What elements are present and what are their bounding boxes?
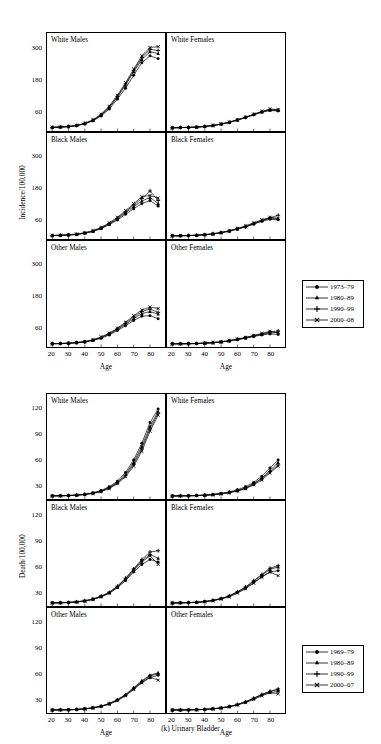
death-ytick: 30 <box>24 589 42 597</box>
incidence-ytick: 180 <box>24 184 42 192</box>
x-tick-label: 50 <box>92 350 110 358</box>
legend-symbol-filled-circle-icon <box>305 282 329 292</box>
incidence-ytick: 180 <box>24 76 42 84</box>
incidence-ytick: 300 <box>24 44 42 52</box>
panel-incidence-white-males: White Males <box>46 32 166 132</box>
x-tick-label: 60 <box>109 350 127 358</box>
incidence-ytick: 180 <box>24 292 42 300</box>
panel-plot <box>167 394 285 499</box>
incidence-ytick: 300 <box>24 152 42 160</box>
legend-symbol-plus-icon <box>305 669 329 679</box>
panel-plot <box>47 241 165 347</box>
panel-plot <box>167 133 285 239</box>
x-tick-label: 60 <box>229 350 247 358</box>
death-ytick: 120 <box>24 618 42 626</box>
legend-symbol-cross-icon <box>305 680 329 690</box>
panel-incidence-black-males: Black Males <box>46 132 166 240</box>
panel-plot <box>167 241 285 347</box>
death-ytick: 90 <box>24 644 42 652</box>
x-tick-label: 40 <box>75 716 93 724</box>
death-ytick: 30 <box>24 482 42 490</box>
figure-caption: (k) Urinary Bladder <box>0 724 381 733</box>
x-tick-label: 20 <box>42 716 60 724</box>
x-tick-label: 80 <box>142 350 160 358</box>
panel-incidence-other-females: Other Females <box>166 240 286 348</box>
x-tick-label: 20 <box>162 350 180 358</box>
legend-item[interactable]: 2000–08 <box>303 314 363 325</box>
legend-label: 2000–07 <box>330 681 354 688</box>
death-legend: 1969–79 1980–89 1990–99 2000–07 <box>302 645 364 693</box>
x-tick-label: 40 <box>195 716 213 724</box>
x-tick-label: 40 <box>195 350 213 358</box>
legend-item[interactable]: 1973–79 <box>303 281 363 292</box>
x-tick-label: 60 <box>109 716 127 724</box>
legend-item[interactable]: 1980–89 <box>303 657 363 668</box>
death-ytick: 60 <box>24 563 42 571</box>
x-tick-label: 70 <box>125 350 143 358</box>
legend-label: 1969–79 <box>330 648 354 655</box>
legend-label: 1990–99 <box>330 670 354 677</box>
x-tick-label: 20 <box>162 716 180 724</box>
legend-label: 1980–89 <box>330 294 354 301</box>
panel-death-black-females: Black Females <box>166 500 286 607</box>
incidence-legend: 1973–79 1980–89 1990–99 2000–08 <box>302 280 364 328</box>
panel-plot <box>47 133 165 239</box>
legend-label: 1990–99 <box>330 305 354 312</box>
panel-plot <box>167 501 285 606</box>
legend-item[interactable]: 1990–99 <box>303 303 363 314</box>
incidence-ytick: 60 <box>24 216 42 224</box>
legend-symbol-triangle-up-icon <box>305 658 329 668</box>
legend-item[interactable]: 2000–07 <box>303 679 363 690</box>
x-tick-label: 50 <box>212 350 230 358</box>
panel-death-white-males: White Males <box>46 393 166 500</box>
panel-plot <box>47 394 165 499</box>
incidence-ytick: 60 <box>24 108 42 116</box>
panel-death-other-females: Other Females <box>166 607 286 714</box>
legend-label: 2000–08 <box>330 316 354 323</box>
legend-item[interactable]: 1980–89 <box>303 292 363 303</box>
death-ytick: 90 <box>24 537 42 545</box>
death-ytick: 120 <box>24 511 42 519</box>
legend-label: 1980–89 <box>330 659 354 666</box>
x-tick-label: 70 <box>245 350 263 358</box>
panel-death-other-males: Other Males <box>46 607 166 714</box>
incidence-ytick: 300 <box>24 260 42 268</box>
legend-symbol-triangle-up-icon <box>305 293 329 303</box>
x-tick-label: 30 <box>179 716 197 724</box>
panel-death-black-males: Black Males <box>46 500 166 607</box>
panel-incidence-black-females: Black Females <box>166 132 286 240</box>
x-tick-label: 30 <box>59 350 77 358</box>
incidence-x-axis-title-left: Age <box>46 362 166 371</box>
legend-symbol-plus-icon <box>305 304 329 314</box>
incidence-ytick: 60 <box>24 324 42 332</box>
legend-item[interactable]: 1990–99 <box>303 668 363 679</box>
x-tick-label: 30 <box>59 716 77 724</box>
death-ytick: 30 <box>24 696 42 704</box>
legend-item[interactable]: 1969–79 <box>303 646 363 657</box>
panel-incidence-white-females: White Females <box>166 32 286 132</box>
legend-symbol-filled-circle-icon <box>305 647 329 657</box>
figure-page: Incidence/100,000 300 180 60 300 180 60 … <box>0 0 381 744</box>
x-tick-label: 70 <box>125 716 143 724</box>
x-tick-label: 20 <box>42 350 60 358</box>
incidence-x-axis-title-right: Age <box>166 362 286 371</box>
panel-plot <box>167 33 285 131</box>
legend-symbol-cross-icon <box>305 315 329 325</box>
x-tick-label: 70 <box>245 716 263 724</box>
x-tick-label: 80 <box>262 716 280 724</box>
death-ytick: 60 <box>24 456 42 464</box>
x-tick-label: 80 <box>262 350 280 358</box>
death-ytick: 90 <box>24 430 42 438</box>
death-ytick: 120 <box>24 404 42 412</box>
legend-label: 1973–79 <box>330 283 354 290</box>
x-tick-label: 60 <box>229 716 247 724</box>
panel-plot <box>47 33 165 131</box>
panel-incidence-other-males: Other Males <box>46 240 166 348</box>
panel-plot <box>47 608 165 713</box>
panel-plot <box>47 501 165 606</box>
panel-plot <box>167 608 285 713</box>
x-tick-label: 50 <box>212 716 230 724</box>
x-tick-label: 40 <box>75 350 93 358</box>
panel-death-white-females: White Females <box>166 393 286 500</box>
x-tick-label: 30 <box>179 350 197 358</box>
